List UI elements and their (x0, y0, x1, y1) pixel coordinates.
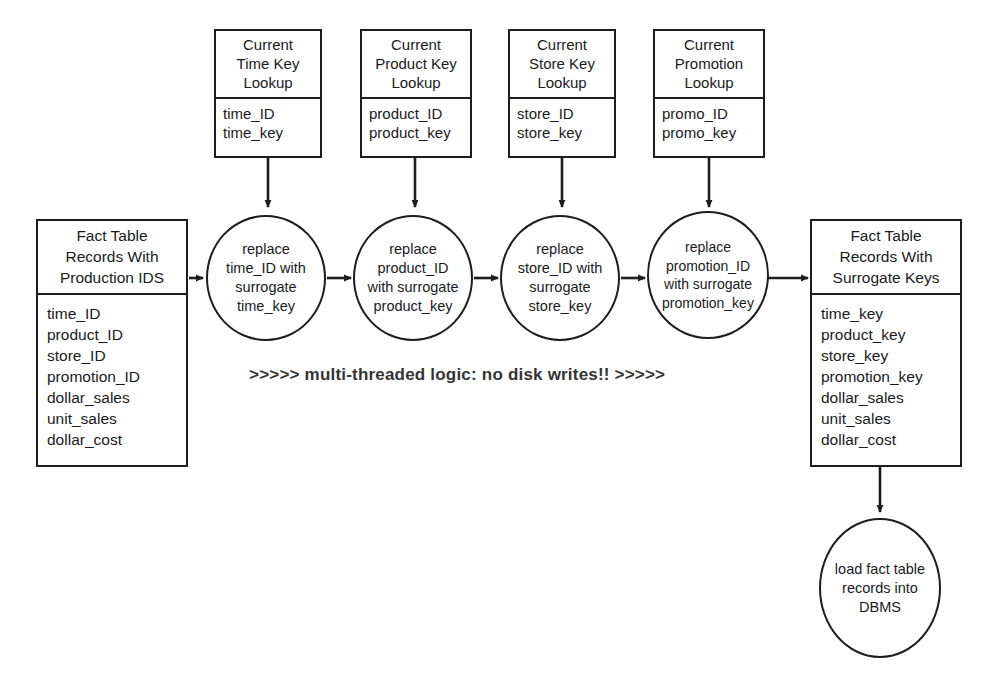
fact-table-header-line: Records With (839, 246, 932, 267)
process-label-line: product_key (367, 297, 458, 316)
fact-table-header: Fact Table Records With Surrogate Keys (812, 221, 960, 295)
process-replace-promotion-id[interactable]: replace promotion_ID with surrogate prom… (647, 211, 769, 339)
multi-threaded-annotation: >>>>> multi-threaded logic: no disk writ… (249, 365, 665, 385)
process-label-line: promotion_key (662, 294, 754, 313)
process-label-line: records into (835, 579, 925, 598)
lookup-fields: promo_ID promo_key (655, 99, 763, 156)
lookup-field: store_key (517, 123, 614, 142)
process-label: replace product_ID with surrogate produc… (365, 240, 460, 316)
lookup-box-store-key[interactable]: Current Store Key Lookup store_ID store_… (508, 29, 616, 158)
fact-table-field: promotion_ID (47, 366, 186, 387)
lookup-field: product_ID (369, 104, 470, 123)
lookup-box-product-key[interactable]: Current Product Key Lookup product_ID pr… (360, 29, 472, 158)
lookup-field: promo_key (662, 123, 763, 142)
process-label-line: load fact table (835, 560, 925, 579)
lookup-header-line: Product Key (375, 54, 457, 73)
lookup-header-line: Lookup (537, 73, 586, 92)
process-label-line: with surrogate (367, 278, 458, 297)
process-label-line: DBMS (835, 598, 925, 617)
lookup-field: time_key (223, 123, 320, 142)
fact-table-header-line: Records With (65, 246, 158, 267)
lookup-header-line: Store Key (529, 54, 595, 73)
lookup-header: Current Product Key Lookup (362, 31, 470, 99)
lookup-box-time-key[interactable]: Current Time Key Lookup time_ID time_key (214, 29, 322, 158)
lookup-header: Current Promotion Lookup (655, 31, 763, 99)
process-label-line: replace (367, 240, 458, 259)
process-replace-store-id[interactable]: replace store_ID with surrogate store_ke… (500, 215, 620, 341)
fact-table-field: product_key (821, 324, 960, 345)
lookup-header-line: Time Key (237, 54, 300, 73)
fact-table-field: dollar_cost (47, 429, 186, 450)
process-label: replace time_ID with surrogate time_key (224, 240, 308, 316)
process-label-line: store_ID with (518, 259, 603, 278)
lookup-field: promo_ID (662, 104, 763, 123)
lookup-field: time_ID (223, 104, 320, 123)
process-label-line: time_key (226, 297, 306, 316)
lookup-fields: store_ID store_key (510, 99, 614, 156)
lookup-box-promotion[interactable]: Current Promotion Lookup promo_ID promo_… (653, 29, 765, 158)
lookup-header-line: Lookup (391, 73, 440, 92)
fact-table-field: dollar_sales (47, 387, 186, 408)
process-label-line: replace (518, 240, 603, 259)
lookup-header-line: Promotion (675, 54, 743, 73)
process-replace-product-id[interactable]: replace product_ID with surrogate produc… (353, 215, 473, 341)
process-label-line: surrogate (518, 278, 603, 297)
process-label-line: promotion_ID (662, 257, 754, 276)
process-label-line: product_ID (367, 259, 458, 278)
process-label-line: time_ID with (226, 259, 306, 278)
fact-table-field: time_ID (47, 303, 186, 324)
fact-table-field: dollar_cost (821, 429, 960, 450)
lookup-header-line: Current (537, 35, 587, 54)
process-label-line: replace (662, 238, 754, 257)
lookup-field: store_ID (517, 104, 614, 123)
fact-table-header-line: Fact Table (76, 225, 147, 246)
diagram-canvas: Current Time Key Lookup time_ID time_key… (0, 0, 985, 673)
fact-table-header-line: Fact Table (850, 225, 921, 246)
fact-table-fields: time_ID product_ID store_ID promotion_ID… (38, 295, 186, 465)
lookup-header-line: Lookup (243, 73, 292, 92)
lookup-header-line: Current (243, 35, 293, 54)
lookup-header-line: Current (391, 35, 441, 54)
fact-table-field: promotion_key (821, 366, 960, 387)
fact-table-header: Fact Table Records With Production IDS (38, 221, 186, 295)
fact-table-header-line: Production IDS (60, 267, 164, 288)
process-label: replace promotion_ID with surrogate prom… (660, 238, 756, 312)
fact-table-fields: time_key product_key store_key promotion… (812, 295, 960, 465)
process-load-fact-table-dbms[interactable]: load fact table records into DBMS (819, 518, 941, 658)
lookup-header: Current Time Key Lookup (216, 31, 320, 99)
process-replace-time-id[interactable]: replace time_ID with surrogate time_key (206, 215, 326, 341)
process-label-line: replace (226, 240, 306, 259)
lookup-header: Current Store Key Lookup (510, 31, 614, 99)
lookup-to-process-arrows (268, 158, 709, 207)
process-label: replace store_ID with surrogate store_ke… (516, 240, 605, 316)
fact-table-production-ids[interactable]: Fact Table Records With Production IDS t… (36, 219, 188, 467)
lookup-fields: time_ID time_key (216, 99, 320, 156)
lookup-field: product_key (369, 123, 470, 142)
process-label-line: store_key (518, 297, 603, 316)
fact-table-header-line: Surrogate Keys (833, 267, 940, 288)
process-label: load fact table records into DBMS (833, 560, 927, 617)
fact-table-surrogate-keys[interactable]: Fact Table Records With Surrogate Keys t… (810, 219, 962, 467)
fact-table-field: store_ID (47, 345, 186, 366)
fact-table-field: product_ID (47, 324, 186, 345)
lookup-fields: product_ID product_key (362, 99, 470, 156)
fact-table-field: unit_sales (47, 408, 186, 429)
process-label-line: with surrogate (662, 275, 754, 294)
fact-table-field: time_key (821, 303, 960, 324)
fact-table-field: store_key (821, 345, 960, 366)
lookup-header-line: Lookup (684, 73, 733, 92)
fact-table-field: dollar_sales (821, 387, 960, 408)
fact-table-field: unit_sales (821, 408, 960, 429)
process-label-line: surrogate (226, 278, 306, 297)
lookup-header-line: Current (684, 35, 734, 54)
